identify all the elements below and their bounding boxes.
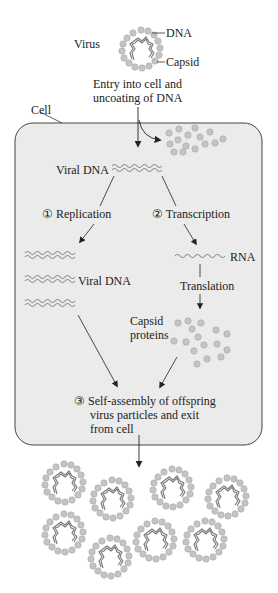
offspring-virus	[42, 461, 86, 505]
rna-label: RNA	[230, 250, 255, 264]
assembly-label-line1: ③ Self-assembly of offspring	[74, 394, 216, 408]
cell-label: Cell	[31, 103, 51, 117]
translation-label: Translation	[180, 279, 234, 293]
replicated-viral-dna-label: Viral DNA	[78, 274, 131, 288]
virus-illustration	[119, 27, 163, 71]
offspring-virus	[88, 535, 132, 579]
offspring-virus	[205, 475, 249, 519]
viral-dna-label: Viral DNA	[56, 163, 109, 177]
virus-label: Virus	[74, 37, 100, 51]
transcription-label: ② Transcription	[152, 207, 230, 221]
offspring-virus	[150, 466, 194, 510]
capsid-proteins-label-line2: proteins	[130, 328, 169, 342]
entry-label-line2: uncoating of DNA	[93, 91, 182, 105]
offspring-virus	[42, 511, 86, 555]
dna-label: DNA	[166, 26, 192, 40]
offspring-virus	[133, 518, 177, 562]
offspring-virus	[90, 477, 134, 521]
assembly-label-line2: virus particles and exit	[90, 408, 199, 422]
capsid-proteins-label-line1: Capsid	[130, 314, 163, 328]
replication-label: ① Replication	[42, 207, 111, 221]
assembly-label-line3: from cell	[90, 422, 134, 436]
offspring-virus	[183, 518, 227, 562]
capsid-label: Capsid	[166, 55, 199, 69]
entry-label-line1: Entry into cell and	[93, 77, 182, 91]
offspring-viruses	[42, 461, 249, 579]
